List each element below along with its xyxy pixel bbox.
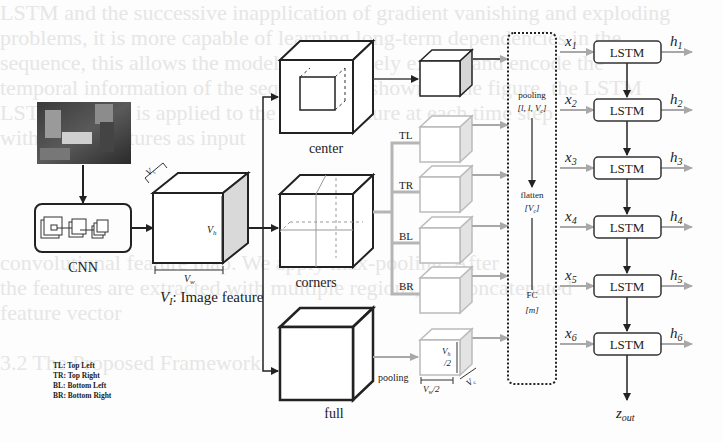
corner-pooled-cubes xyxy=(420,116,472,313)
corner-label-tl: TL xyxy=(399,129,413,141)
step-flatten-label: flatten xyxy=(521,190,544,200)
input-x2: x2 xyxy=(564,91,577,109)
legend-br: BR: Bottom Right xyxy=(53,391,112,400)
center-pooled-cube xyxy=(420,50,472,96)
step-pooling-label: pooling xyxy=(518,90,546,100)
final-output-z: zout xyxy=(615,405,635,423)
full-pooling-label: pooling xyxy=(378,372,409,383)
svg-text:LSTM: LSTM xyxy=(610,337,645,352)
corners-label: corners xyxy=(295,275,336,290)
output-h1: h1 xyxy=(670,33,683,51)
output-h2: h2 xyxy=(670,91,683,109)
lstm-cell-3: LSTM xyxy=(594,157,661,179)
lstm-cell-2: LSTM xyxy=(594,99,661,121)
corner-label-br: BR xyxy=(399,280,414,292)
lstm-cell-5: LSTM xyxy=(594,275,661,297)
dim-w-label: Vw xyxy=(184,273,195,286)
input-image xyxy=(37,102,131,164)
svg-text:LSTM: LSTM xyxy=(610,220,645,235)
step-fc-label: FC xyxy=(526,290,537,300)
svg-text:LSTM: LSTM xyxy=(610,279,645,294)
step-fc-dims: [m] xyxy=(525,305,539,315)
corner-arrows xyxy=(472,125,508,338)
full-label: full xyxy=(324,406,344,421)
step-pooling-dims: [l, l, Vc] xyxy=(517,103,547,114)
corners-region-cube xyxy=(280,175,373,267)
legend-bl: BL: Bottom Left xyxy=(53,381,107,390)
svg-text:LSTM: LSTM xyxy=(610,45,645,60)
lstm-cell-6: LSTM xyxy=(594,333,661,355)
dim-c-label: Vc xyxy=(144,164,157,178)
pooled-c-label: Vc xyxy=(464,375,477,389)
svg-text:LSTM: LSTM xyxy=(610,103,645,118)
pooled-w-label: Vw/2 xyxy=(423,384,440,395)
legend: TL: Top Left TR: Top Right BL: Bottom Le… xyxy=(53,361,112,400)
corner-label-tr: TR xyxy=(399,179,414,191)
output-h5: h5 xyxy=(670,267,683,285)
image-feature-cube xyxy=(145,163,248,274)
center-region-cube xyxy=(280,41,373,133)
input-x5: x5 xyxy=(564,267,577,285)
image-feature-label: VI: Image feature xyxy=(160,289,264,307)
pooled-h-div: /2 xyxy=(443,358,452,368)
corner-branches xyxy=(373,143,420,294)
legend-tr: TR: Top Right xyxy=(53,371,100,380)
cnn-block xyxy=(35,204,131,252)
output-h3: h3 xyxy=(670,149,683,167)
lstm-cell-1: LSTM xyxy=(594,41,661,63)
center-label: center xyxy=(309,141,344,156)
corner-label-bl: BL xyxy=(399,230,413,242)
output-h6: h6 xyxy=(670,325,683,343)
output-h4: h4 xyxy=(670,208,683,226)
svg-text:LSTM: LSTM xyxy=(610,161,645,176)
step-flatten-dims: [Vc] xyxy=(524,203,540,214)
input-x4: x4 xyxy=(564,208,577,226)
full-region-cube xyxy=(280,308,373,400)
architecture-diagram: CNN Vc Vh Vw VI: Image feature center xyxy=(0,0,723,442)
input-x3: x3 xyxy=(564,149,577,167)
lstm-cell-4: LSTM xyxy=(594,216,661,238)
cnn-label: CNN xyxy=(68,260,98,275)
input-x6: x6 xyxy=(564,325,577,343)
input-x1: x1 xyxy=(564,33,577,51)
legend-tl: TL: Top Left xyxy=(53,361,95,370)
